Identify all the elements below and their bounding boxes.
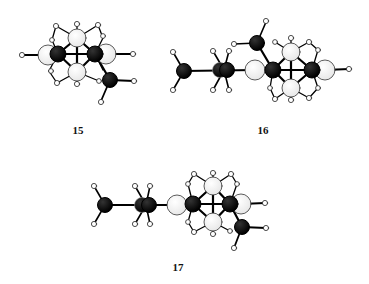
molecule-16: [170, 18, 351, 102]
molecule-15: [19, 21, 136, 104]
molecule-label-17: 17: [173, 261, 184, 273]
molecule-label-15: 15: [73, 124, 84, 136]
molecule-label-16: 16: [258, 124, 269, 136]
molecule-17: [91, 170, 268, 250]
molecule-diagram: [0, 0, 369, 284]
